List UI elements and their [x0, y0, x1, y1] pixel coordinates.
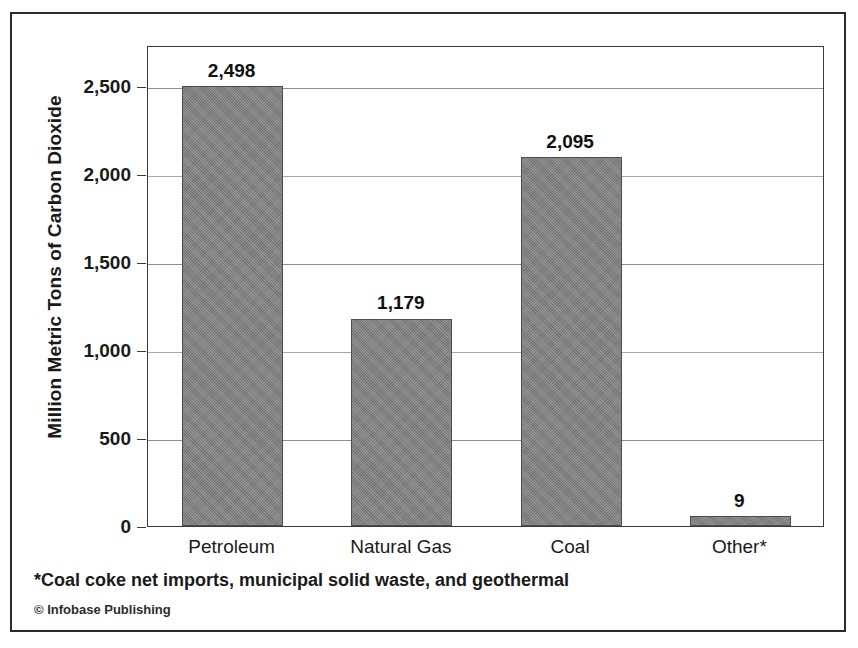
y-tick-mark-2000 [137, 175, 146, 176]
bar-coal [521, 157, 622, 526]
y-tick-mark-0 [137, 527, 146, 528]
bar-petroleum [182, 86, 283, 526]
footnote-text: *Coal coke net imports, municipal solid … [34, 570, 569, 591]
y-tick-label-1000: 1,000 [35, 340, 131, 362]
bar-value-label-coal: 2,095 [546, 131, 594, 153]
bar-natural-gas [351, 319, 452, 527]
y-tick-mark-2500 [137, 87, 146, 88]
chart-figure: Million Metric Tons of Carbon Dioxide 05… [10, 12, 846, 632]
x-label-petroleum: Petroleum [188, 536, 275, 558]
plot-area [147, 46, 824, 527]
bar-value-label-natural-gas: 1,179 [377, 292, 425, 314]
x-label-coal: Coal [551, 536, 590, 558]
y-tick-label-500: 500 [35, 428, 131, 450]
y-tick-label-2000: 2,000 [35, 164, 131, 186]
bar-value-label-other: 9 [734, 490, 745, 512]
y-tick-mark-500 [137, 439, 146, 440]
y-tick-label-1500: 1,500 [35, 252, 131, 274]
bar-value-label-petroleum: 2,498 [208, 60, 256, 82]
x-label-natural-gas: Natural Gas [350, 536, 451, 558]
y-tick-mark-1000 [137, 351, 146, 352]
x-label-other: Other* [712, 536, 767, 558]
y-tick-label-2500: 2,500 [35, 76, 131, 98]
bar-other [690, 516, 791, 526]
credit-text: © Infobase Publishing [34, 602, 171, 617]
y-tick-mark-1500 [137, 263, 146, 264]
y-tick-label-0: 0 [35, 516, 131, 538]
